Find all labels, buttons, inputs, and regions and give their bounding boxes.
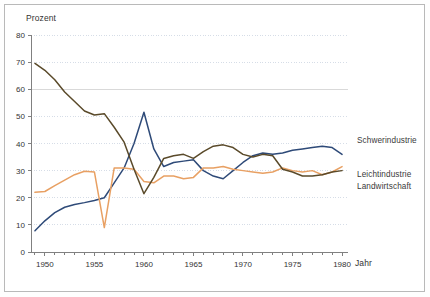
legend-item-landwirtschaft: Landwirtschaft <box>357 182 411 191</box>
svg-text:20: 20 <box>16 194 25 203</box>
legend-item-leichtindustrie: Leichtindustrie <box>357 170 411 179</box>
svg-text:1980: 1980 <box>333 260 351 269</box>
svg-text:40: 40 <box>16 140 25 149</box>
data-series <box>35 63 342 230</box>
svg-text:60: 60 <box>16 85 25 94</box>
svg-text:30: 30 <box>16 167 25 176</box>
svg-text:1950: 1950 <box>36 260 54 269</box>
axis-ticks <box>28 35 342 256</box>
svg-text:1960: 1960 <box>135 260 153 269</box>
svg-text:10: 10 <box>16 221 25 230</box>
svg-text:0: 0 <box>21 248 26 257</box>
chart-figure: Prozent Jahr 010203040506070801950195519… <box>0 0 430 297</box>
axis-tick-labels: 0102030405060708019501955196019651970197… <box>16 31 351 269</box>
legend-item-schwerindustrie: Schwerindustrie <box>357 136 417 145</box>
svg-text:70: 70 <box>16 58 25 67</box>
svg-text:80: 80 <box>16 31 25 40</box>
svg-text:1965: 1965 <box>185 260 203 269</box>
gridlines <box>31 35 348 252</box>
svg-text:50: 50 <box>16 112 25 121</box>
line-chart-plot: 0102030405060708019501955196019651970197… <box>0 0 430 297</box>
svg-text:1955: 1955 <box>86 260 104 269</box>
svg-text:1975: 1975 <box>284 260 302 269</box>
svg-text:1970: 1970 <box>234 260 252 269</box>
